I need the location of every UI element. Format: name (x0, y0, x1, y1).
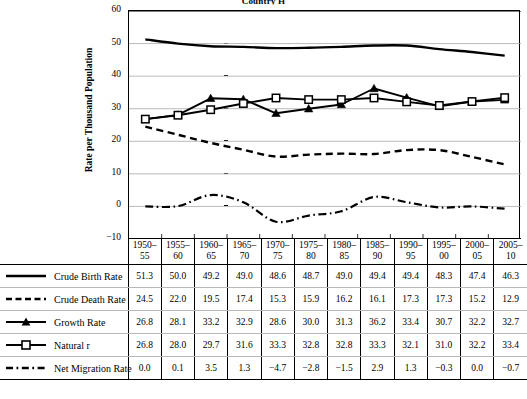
table-cell: 12.9 (494, 288, 527, 311)
data-point-marker (142, 115, 149, 122)
series-label-text: Growth Rate (54, 317, 105, 328)
table-cell: 32.2 (461, 334, 494, 357)
data-point-marker (207, 106, 214, 113)
plot-svg (129, 11, 521, 239)
table-header-cell: 1975–80 (294, 238, 327, 265)
table-header-cell: 1955–60 (161, 238, 194, 265)
chart-page: Country H Rate per Thousand Population 6… (0, 0, 527, 399)
period-end: 80 (295, 251, 327, 262)
y-tick-label: 40 (99, 70, 121, 80)
series-crude-death-rate (145, 127, 504, 165)
table-cell: 47.4 (461, 265, 494, 288)
legend-swatch-icon (4, 339, 48, 351)
data-table-region: 1950–551955–601960–651965–701970–751975–… (0, 238, 527, 399)
data-point-marker (370, 94, 377, 101)
table-cell: 3.5 (195, 357, 228, 380)
table-cell: 17.3 (427, 288, 460, 311)
period-end: 70 (228, 251, 260, 262)
table-cell: −2.8 (294, 357, 327, 380)
period-end: 00 (428, 251, 460, 262)
table-header-cell: 1970–75 (261, 238, 294, 265)
table-row: Crude Birth Rate51.350.049.249.048.648.7… (0, 265, 527, 288)
table-cell: 0.0 (128, 357, 161, 380)
y-axis-ticklabels: 6050403020100−10 (100, 0, 124, 245)
table-cell: 32.9 (228, 311, 261, 334)
legend-swatch (4, 293, 48, 305)
series-layer (141, 39, 509, 222)
data-point-marker (501, 94, 508, 101)
table-cell: 51.3 (128, 265, 161, 288)
period-end: 60 (162, 251, 194, 262)
data-point-marker (436, 102, 443, 109)
series-label-cell: Crude Birth Rate (0, 265, 128, 288)
table-header-row: 1950–551955–601960–651965–701970–751975–… (0, 238, 527, 265)
y-tick-label: 60 (99, 5, 121, 15)
data-table: 1950–551955–601960–651965–701970–751975–… (0, 238, 527, 380)
series-crude-birth-rate (145, 39, 504, 55)
table-cell: 31.3 (328, 311, 361, 334)
data-point-marker (272, 94, 279, 101)
legend-swatch (4, 362, 48, 374)
y-tick-label: 0 (99, 200, 121, 210)
series-label-cell: Growth Rate (0, 311, 128, 334)
period-start: 1950– (129, 240, 161, 251)
table-cell: 32.7 (494, 311, 527, 334)
table-cell: −0.3 (427, 357, 460, 380)
legend-swatch-icon (4, 293, 48, 305)
table-cell: 50.0 (161, 265, 194, 288)
period-start: 1955– (162, 240, 194, 251)
table-cell: 49.4 (394, 265, 427, 288)
data-point-marker (338, 96, 345, 103)
table-cell: 16.1 (361, 288, 394, 311)
table-cell: 46.3 (494, 265, 527, 288)
table-row: Crude Death Rate24.522.019.517.415.315.9… (0, 288, 527, 311)
table-row: Natural r26.828.029.731.633.332.832.833.… (0, 334, 527, 357)
table-row: Growth Rate26.828.133.232.928.630.031.33… (0, 311, 527, 334)
period-start: 1990– (395, 240, 427, 251)
table-cell: 31.6 (228, 334, 261, 357)
series-line (145, 195, 504, 222)
series-label-cell: Net Migration Rate (0, 357, 128, 380)
period-start: 1985– (361, 240, 393, 251)
table-cell: 32.1 (394, 334, 427, 357)
table-cell: 26.8 (128, 334, 161, 357)
series-label-text: Crude Birth Rate (54, 271, 122, 282)
table-cell: 33.2 (195, 311, 228, 334)
table-cell: 36.2 (361, 311, 394, 334)
table-header-cell: 1995–00 (427, 238, 460, 265)
legend-swatch (4, 339, 48, 351)
table-corner-cell (0, 238, 128, 265)
table-cell: 49.2 (195, 265, 228, 288)
table-cell: 29.7 (195, 334, 228, 357)
table-cell: 33.3 (261, 334, 294, 357)
table-cell: 33.4 (494, 334, 527, 357)
series-label-text: Net Migration Rate (54, 363, 132, 374)
table-header-cell: 1985–90 (361, 238, 394, 265)
table-cell: 17.3 (394, 288, 427, 311)
series-label-cell: Natural r (0, 334, 128, 357)
period-start: 1960– (195, 240, 227, 251)
table-cell: 15.3 (261, 288, 294, 311)
table-cell: 48.3 (427, 265, 460, 288)
period-start: 1965– (228, 240, 260, 251)
table-cell: 30.7 (427, 311, 460, 334)
table-header-cell: 2000–05 (461, 238, 494, 265)
legend-swatch (4, 270, 48, 282)
table-cell: 31.0 (427, 334, 460, 357)
period-end: 75 (262, 251, 294, 262)
series-label-text: Crude Death Rate (54, 294, 126, 305)
table-header-cell: 1990–95 (394, 238, 427, 265)
period-end: 85 (328, 251, 360, 262)
table-cell: 1.3 (394, 357, 427, 380)
data-point-marker (305, 96, 312, 103)
period-start: 1970– (262, 240, 294, 251)
table-header-cell: 1950–55 (128, 238, 161, 265)
table-cell: 26.8 (128, 311, 161, 334)
table-cell: −4.7 (261, 357, 294, 380)
table-cell: 49.4 (361, 265, 394, 288)
table-cell: 15.9 (294, 288, 327, 311)
series-label-text: Natural r (54, 340, 90, 351)
chart-region: Rate per Thousand Population 60504030201… (0, 0, 527, 245)
legend-swatch-icon (4, 316, 48, 328)
legend-swatch (4, 316, 48, 328)
